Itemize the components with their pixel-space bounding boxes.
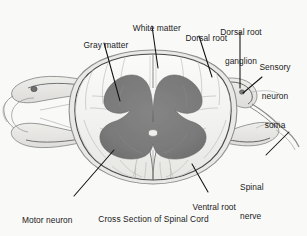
left-ganglion-dot [31,86,37,91]
label-gray-matter: Gray matter [74,31,128,60]
label-spinal-nerve: Spinal nerve [240,164,264,236]
label-sensory-neuron-soma: Sensory neuron soma [247,44,303,150]
label-line: Sensory [247,63,303,73]
figure-caption: Cross Section of Spinal Cord [0,214,307,224]
label-line: Dorsal root [206,28,276,38]
label-line: neuron [247,92,303,102]
spinal-cord-figure: White matter Gray matter Dorsal root Dor… [0,0,307,236]
label-line: soma [247,121,303,131]
label-line: Spinal [240,183,264,193]
central-canal [148,130,157,137]
